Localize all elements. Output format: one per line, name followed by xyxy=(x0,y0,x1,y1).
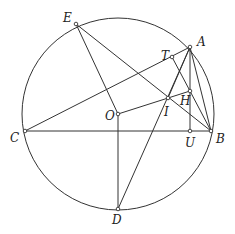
point-d xyxy=(116,207,120,211)
segment-eo xyxy=(76,24,118,114)
label-b: B xyxy=(215,132,225,146)
point-h xyxy=(188,89,192,93)
label-d: D xyxy=(111,213,122,227)
label-o: O xyxy=(105,109,115,123)
segment-eb xyxy=(76,24,211,131)
segments-group xyxy=(25,24,211,209)
label-i: I xyxy=(163,105,169,119)
label-h: H xyxy=(179,94,191,108)
point-t xyxy=(170,55,174,59)
label-e: E xyxy=(62,11,72,25)
segment-ai xyxy=(168,47,190,98)
label-u: U xyxy=(185,136,196,150)
label-a: A xyxy=(196,35,206,49)
point-e xyxy=(74,22,78,26)
segment-hb xyxy=(190,91,211,131)
point-i xyxy=(166,96,170,100)
point-a xyxy=(188,45,192,49)
geometry-diagram: ABCDEOTHIU xyxy=(0,0,235,234)
point-c xyxy=(23,129,27,133)
label-t: T xyxy=(161,49,170,63)
point-o xyxy=(116,112,120,116)
segment-ab xyxy=(190,47,211,131)
point-u xyxy=(188,129,192,133)
label-c: C xyxy=(10,131,19,145)
point-b xyxy=(209,129,213,133)
segment-th xyxy=(172,57,190,91)
